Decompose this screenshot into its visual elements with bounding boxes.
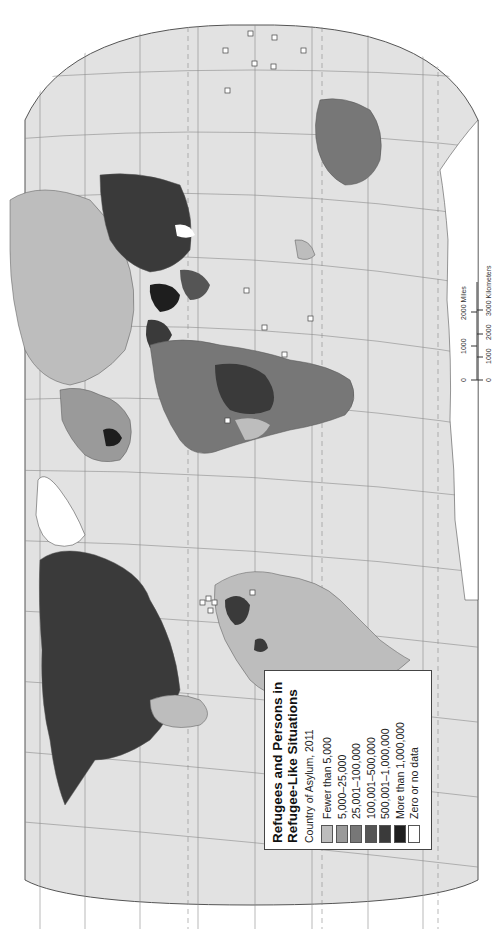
legend-title-line1: Refugees and Persons in — [270, 677, 285, 843]
legend-title: Refugees and Persons in Refugee-Like Sit… — [270, 677, 300, 843]
legend-item: More than 1,000,000 — [393, 677, 408, 843]
legend-title-line2: Refugee-Like Situations — [285, 677, 300, 843]
legend-item: 500,001–1,000,000 — [378, 677, 393, 843]
legend-swatch — [321, 825, 333, 843]
legend-label: More than 1,000,000 — [394, 722, 406, 819]
legend-swatch — [408, 825, 420, 843]
scale-km-0: 0 — [485, 378, 492, 382]
legend-item: Zero or no data — [407, 677, 422, 843]
legend-swatch — [394, 825, 406, 843]
legend-item: 25,001–100,000 — [349, 677, 364, 843]
legend-item: Fewer than 5,000 — [320, 677, 335, 843]
scale-bar-container: 0 1000 2000 Miles 0 1000 2000 3000 Kilom… — [452, 240, 502, 390]
legend-label: Zero or no data — [408, 747, 420, 819]
legend-swatch — [365, 825, 377, 843]
scale-miles-2000: 2000 Miles — [460, 286, 467, 320]
legend-swatch — [350, 825, 362, 843]
scale-bar: 0 1000 2000 Miles 0 1000 2000 3000 Kilom… — [452, 240, 502, 390]
legend-container: Refugees and Persons in Refugee-Like Sit… — [264, 670, 432, 850]
scale-km-2000: 2000 — [485, 324, 492, 340]
legend-swatch — [379, 825, 391, 843]
legend: Refugees and Persons in Refugee-Like Sit… — [264, 670, 432, 850]
legend-swatch — [336, 825, 348, 843]
legend-label: 500,001–1,000,000 — [379, 728, 391, 819]
scale-km-1000: 1000 — [485, 348, 492, 364]
legend-subtitle: Country of Asylum, 2011 — [303, 677, 316, 843]
scale-km-3000: 3000 Kilometers — [485, 265, 492, 316]
legend-label: 25,001–100,000 — [350, 743, 362, 819]
legend-item: 100,001–500,000 — [364, 677, 379, 843]
legend-label: Fewer than 5,000 — [321, 737, 333, 819]
legend-label: 5,000–25,000 — [336, 755, 348, 819]
scale-miles-0: 0 — [460, 378, 467, 382]
legend-label: 100,001–500,000 — [365, 737, 377, 819]
legend-item: 5,000–25,000 — [335, 677, 350, 843]
scale-miles-1000: 1000 — [460, 338, 467, 354]
